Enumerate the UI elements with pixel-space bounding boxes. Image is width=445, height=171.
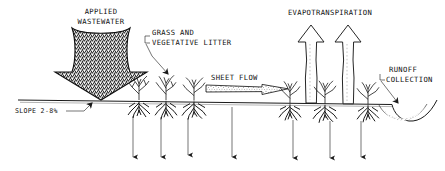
label-evapotranspiration: EVAPOTRANSPIRATION	[288, 8, 372, 17]
slope-text: SLOPE 2-8%	[15, 107, 58, 115]
applied-wastewater-line2: WASTEWATER	[78, 17, 125, 26]
label-slope: SLOPE 2-8%	[15, 103, 92, 115]
evapotranspiration-arrow-left-icon	[298, 25, 324, 103]
label-sheet-flow: SHEET FLOW	[211, 73, 258, 82]
slope-leader-line	[66, 103, 92, 111]
label-applied-wastewater: APPLIED WASTEWATER	[78, 7, 125, 26]
label-grass-vegetative-litter: GRASS AND VEGETATIVE LITTER	[145, 28, 232, 74]
runoff-line1: RUNOFF	[389, 65, 417, 74]
plant	[357, 82, 379, 122]
plant	[155, 75, 177, 119]
runoff-ditch-icon	[379, 100, 437, 121]
evapotranspiration-arrow-right-icon	[335, 25, 361, 104]
ground-surface-icon	[18, 100, 392, 107]
applied-wastewater-line1: APPLIED	[85, 7, 118, 16]
plant	[279, 81, 301, 120]
sheet-flow-arrow-icon	[206, 84, 288, 94]
applied-wastewater-arrow-icon	[55, 28, 147, 100]
runoff-leader-line	[381, 81, 398, 103]
grass-leader-line	[146, 44, 168, 74]
overland-flow-diagram: APPLIED WASTEWATER GRASS AND VEGETATIVE …	[0, 0, 445, 171]
runoff-line2: COLLECTION	[386, 75, 433, 84]
runoff-leader-bracket	[380, 74, 385, 80]
grass-line2: VEGETATIVE LITTER	[152, 38, 232, 47]
plant	[128, 76, 150, 118]
plant	[182, 78, 206, 120]
label-runoff-collection: RUNOFF COLLECTION	[380, 65, 433, 103]
grass-line1: GRASS AND	[152, 28, 194, 37]
grass-leader-bracket	[145, 36, 150, 43]
